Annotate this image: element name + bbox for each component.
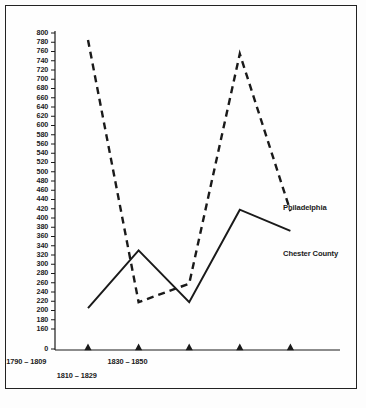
y-tick-label: 560 <box>12 140 48 148</box>
y-tick-label: 580 <box>12 131 48 139</box>
y-tick-label: 480 <box>12 177 48 185</box>
y-tick-label: 440 <box>12 195 48 203</box>
chart-figure: 0160180200220240260280300320340360380400… <box>0 0 366 408</box>
y-tick-label: 200 <box>12 306 48 314</box>
y-tick-label: 600 <box>12 121 48 129</box>
x-tick-label: 1830 – 1850 <box>107 357 147 366</box>
y-tick-label: 460 <box>12 186 48 194</box>
series-lines <box>88 40 290 308</box>
y-tick-label: 300 <box>12 260 48 268</box>
y-tick-label: 620 <box>12 112 48 120</box>
y-tick-label: 500 <box>12 168 48 176</box>
y-tick-label: 740 <box>12 57 48 65</box>
x-tick-label: 1790 – 1809 <box>6 357 46 366</box>
y-tick-label: 180 <box>12 316 48 324</box>
y-tick-label: 360 <box>12 232 48 240</box>
y-tick-label: 420 <box>12 205 48 213</box>
y-tick-label: 160 <box>12 325 48 333</box>
x-tick-label: 1810 – 1829 <box>57 371 97 380</box>
y-tick-label: 380 <box>12 223 48 231</box>
y-tick-label: 520 <box>12 158 48 166</box>
y-tick-label: 320 <box>12 251 48 259</box>
y-tick-label: 220 <box>12 297 48 305</box>
y-tick-label: 760 <box>12 47 48 55</box>
series-label-chester-county: Chester County <box>283 249 338 258</box>
y-tick-label: 780 <box>12 38 48 46</box>
y-tick-label: 400 <box>12 214 48 222</box>
y-tick-label: 0 <box>12 345 48 353</box>
y-tick-label: 800 <box>12 29 48 37</box>
y-tick-label: 720 <box>12 66 48 74</box>
series-label-philadelphia: Philadelphia <box>283 203 327 212</box>
y-tick-label: 260 <box>12 279 48 287</box>
series-line-philadelphia <box>88 40 290 302</box>
x-tick-markers <box>84 344 294 351</box>
series-line-chester-county <box>88 210 290 309</box>
y-tick-label: 340 <box>12 242 48 250</box>
y-tick-label: 540 <box>12 149 48 157</box>
y-tick-label: 640 <box>12 103 48 111</box>
y-tick-label: 280 <box>12 269 48 277</box>
y-tick-label: 660 <box>12 94 48 102</box>
y-tick-label: 240 <box>12 288 48 296</box>
y-tick-label: 680 <box>12 84 48 92</box>
axis-lines <box>55 31 340 350</box>
y-tick-label: 700 <box>12 75 48 83</box>
